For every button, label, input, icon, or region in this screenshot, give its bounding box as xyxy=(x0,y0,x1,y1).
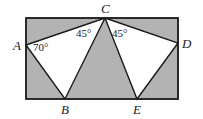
geometry-canvas xyxy=(0,0,203,119)
vertex-label-d: D xyxy=(182,37,191,50)
vertex-label-a: A xyxy=(13,39,21,52)
angle-label-c-right-45: 45° xyxy=(112,28,127,39)
geometry-figure: A B C D E 70° 45° 45° xyxy=(0,0,203,119)
vertex-label-c: C xyxy=(101,2,110,15)
angle-label-a-70: 70° xyxy=(33,42,48,53)
angle-label-c-left-45: 45° xyxy=(76,28,91,39)
vertex-label-e: E xyxy=(133,103,141,116)
vertex-label-b: B xyxy=(61,103,69,116)
